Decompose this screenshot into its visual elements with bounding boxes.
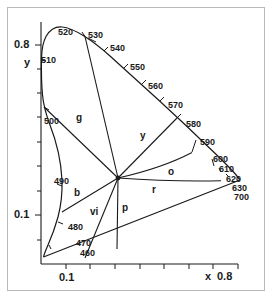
region-label-violet: vi (90, 207, 98, 217)
wavelength-label-510: 510 (41, 56, 56, 65)
wavelength-label-550: 550 (130, 63, 145, 72)
divider-red-to-700 (118, 178, 221, 181)
wavelength-label-530: 530 (88, 31, 103, 40)
x-axis-name: x (205, 271, 211, 282)
region-label-green: g (76, 113, 82, 123)
x-axis-ticks (66, 264, 238, 269)
wavelength-label-540: 540 (110, 44, 125, 53)
x-axis-tick-label-high: 0.8 (217, 271, 232, 282)
wavelength-label-500: 500 (44, 117, 59, 126)
wavelength-label-570: 570 (168, 101, 183, 110)
region-label-orange: o (168, 167, 174, 177)
wavelength-label-590: 590 (200, 138, 215, 147)
purple-boundary (44, 180, 241, 257)
divider-purple-vertical (117, 178, 118, 249)
divider-green-yellow-to-530 (85, 37, 118, 179)
white-point (116, 176, 121, 181)
chromaticity-plot (0, 0, 276, 303)
wavelength-label-460: 460 (80, 249, 95, 258)
wavelength-label-520: 520 (58, 28, 73, 37)
wavelength-label-480: 480 (68, 223, 83, 232)
divider-orange-to-590 (118, 153, 192, 179)
chromaticity-diagram-figure: 520 530 540 550 560 570 580 590 600 610 … (0, 0, 276, 303)
y-axis-tick-label-low: 0.1 (14, 209, 29, 220)
wavelength-label-600: 600 (213, 155, 228, 164)
region-label-blue: b (74, 188, 80, 198)
wavelength-label-700: 700 (234, 193, 249, 202)
wavelength-label-610: 610 (219, 165, 234, 174)
wavelength-label-580: 580 (186, 120, 201, 129)
wavelength-label-470: 470 (76, 239, 91, 248)
y-axis-ticks (35, 45, 41, 240)
wavelength-label-560: 560 (148, 82, 163, 91)
region-label-red: r (152, 185, 156, 195)
region-label-yellow: y (140, 131, 146, 141)
x-axis-tick-label-low: 0.1 (59, 272, 74, 283)
y-axis-name: y (24, 57, 30, 68)
y-axis-tick-label-high: 0.8 (14, 39, 29, 50)
region-label-purple: p (122, 203, 128, 213)
wavelength-label-490: 490 (54, 177, 69, 186)
